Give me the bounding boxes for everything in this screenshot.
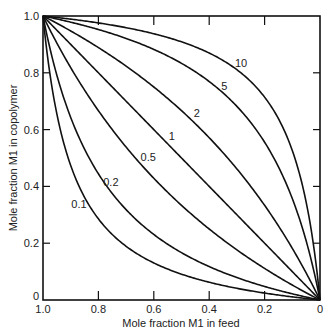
x-axis-label: Mole fraction M1 in feed [122,317,239,329]
x-tick-label: 0 [317,303,323,315]
y-axis-label: Mole fraction M1 in copolymer [7,84,19,231]
x-tick-label: 0.2 [257,303,272,315]
curve-r-1 [43,16,320,300]
y-tick-label: 1.0 [24,10,39,22]
x-tick-label: 0.6 [146,303,161,315]
curve-label: 0.1 [71,198,86,210]
x-tick-label: 0.8 [91,303,106,315]
x-axis-ticks: 1.00.80.60.40.20 [35,16,323,315]
curve-label: 2 [194,107,200,119]
curve-label: 0.5 [141,151,156,163]
y-tick-label: 0.4 [24,180,39,192]
y-tick-label: 0.8 [24,67,39,79]
copolymer-composition-chart: 105210.50.20.1 1.00.80.60.40.20 00.20.40… [0,0,331,335]
curve-label: 1 [169,130,175,142]
curve-labels: 105210.50.20.1 [71,57,247,210]
y-tick-label: 0.6 [24,124,39,136]
curve-label: 0.2 [103,176,118,188]
curve-label: 5 [221,80,227,92]
x-tick-label: 1.0 [35,303,50,315]
curve-label: 10 [235,57,247,69]
y-tick-label: 0.2 [24,237,39,249]
x-tick-label: 0.4 [202,303,217,315]
y-tick-label: 0 [33,290,39,302]
curves [43,16,320,300]
